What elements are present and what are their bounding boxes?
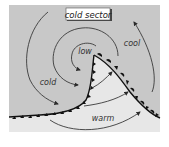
cold-label: cold — [40, 78, 58, 87]
warm-label: warm — [92, 114, 115, 123]
cool-label: cool — [124, 39, 141, 48]
diagram-canvas: cold sector low cold cool warm — [0, 0, 169, 147]
cyclone-diagram: cold sector low cold cool warm — [0, 0, 169, 147]
low-label: low — [78, 47, 92, 56]
cold-sector-label: cold sector — [65, 10, 112, 20]
